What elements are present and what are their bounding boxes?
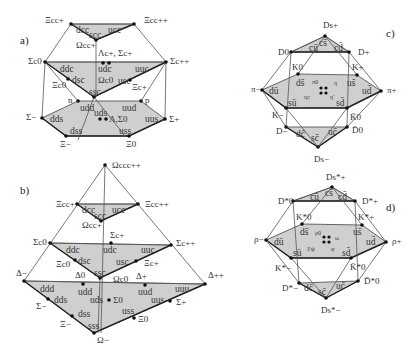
- particle-D-star-minus: D*−: [282, 283, 298, 293]
- particle-K-star-plus: K*+: [358, 212, 374, 222]
- quark-usc: usc: [116, 257, 129, 267]
- quark-us-bar: us̄: [353, 227, 362, 237]
- quark-sd-bar: sd̄: [342, 247, 351, 258]
- particle-n: n: [68, 95, 73, 105]
- quark-su-bar: sū: [288, 98, 297, 108]
- particle-Xi-c-zero: Ξc0: [56, 259, 71, 269]
- particle-phi: φ: [331, 246, 335, 252]
- particle-D-star-0-bar: D̄*0: [364, 276, 380, 286]
- panel-a: a) dcc: [20, 15, 189, 149]
- particle-Xi-cc-plus: Ξcc+: [56, 199, 75, 209]
- particle-Xi-zero: Ξ0: [126, 139, 137, 149]
- particle-Xi-cc-plusplus: Ξcc++: [145, 199, 169, 209]
- quark-udc: udc: [103, 245, 117, 255]
- quark-uc-bar: uc̄: [336, 281, 345, 291]
- quark-ddc: ddc: [66, 245, 80, 255]
- quark-uc-bar: uc̄: [328, 127, 337, 137]
- particle-Xi-minus: Ξ−: [60, 319, 71, 329]
- panel-d-label: d): [386, 201, 396, 214]
- particle-omega: ω: [335, 235, 339, 241]
- quark-uuc: uuc: [141, 245, 155, 255]
- quark-cs-bar: cs̄: [319, 38, 327, 48]
- particle-Xi-c-plus: Ξc+: [132, 82, 147, 92]
- particle-Sigma-zero: Σ0: [113, 295, 123, 305]
- quark-usc: usc: [118, 76, 131, 86]
- particle-Ds-minus: Ds−: [314, 154, 329, 164]
- quark-sc-bar: sc̄: [311, 133, 319, 143]
- particle-D-star-0: D*0: [278, 196, 294, 206]
- quark-cs-bar: cs̄: [325, 188, 333, 198]
- particle-K0: K0: [292, 62, 303, 72]
- particle-Sigma-c-zero: Σc0: [33, 237, 47, 247]
- particle-Delta-minus: Δ−: [16, 268, 27, 278]
- particle-rho-minus: ρ−: [254, 234, 264, 244]
- quark-dsc: dsc: [78, 256, 91, 266]
- quark-ucc: ucc: [112, 205, 125, 215]
- particle-Sigma-minus: Σ−: [36, 301, 46, 311]
- particle-Lambda-Sigma0: Λ,Σ0: [109, 114, 128, 124]
- quark-uss: uss: [122, 306, 134, 316]
- quark-du-bar: dū: [269, 86, 279, 96]
- quark-sss: sss: [88, 321, 99, 331]
- particle-Sigma-plus: Σ+: [169, 114, 179, 124]
- quark-dc-bar: dc̄: [304, 283, 313, 293]
- particle-Xi-c-zero: Ξc0: [52, 80, 67, 90]
- particle-Xi-minus: Ξ−: [60, 139, 71, 149]
- particle-Sigma-c-plus: Σc+: [110, 230, 124, 240]
- particle-Omega-c-zero: Ωc0: [98, 75, 114, 85]
- particle-K-minus: K−: [272, 110, 284, 120]
- particle-Sigma-c-plusplus: Σc++: [176, 238, 195, 248]
- particle-Xi-zero: Ξ0: [138, 314, 149, 324]
- quark-ucc: ucc: [108, 25, 121, 35]
- quark-cd-bar: cd̄: [334, 42, 343, 53]
- quark-cu-bar: cū: [309, 43, 318, 53]
- particle-Sigma-minus: Σ−: [26, 112, 36, 122]
- particle-K-star-minus: K*−: [275, 263, 291, 273]
- particle-Ds-plus: Ds+: [323, 20, 338, 30]
- quark-ud-bar: ud̄: [362, 85, 372, 96]
- quark-dcc: dcc: [76, 25, 89, 35]
- particle-eta-c: ηc: [304, 94, 310, 100]
- quark-du-bar: dū: [274, 237, 284, 247]
- quark-ssc: ssc: [89, 87, 101, 97]
- su4-multiplets-diagram: a) dcc: [0, 0, 412, 357]
- particle-K-plus: K+: [352, 62, 364, 72]
- particle-Delta-plusplus: Δ++: [208, 270, 224, 280]
- particle-D-plus: D+: [358, 47, 370, 57]
- particle-Delta-zero: Δ0: [75, 270, 86, 280]
- particle-eta-prime: η′: [330, 94, 335, 100]
- quark-uss: uss: [119, 126, 131, 136]
- quark-ddd: ddd: [40, 284, 55, 294]
- particle-Xi-c-plus: Ξc+: [144, 258, 159, 268]
- quark-dsc: dsc: [72, 75, 85, 85]
- particle-Sigma-c-plusplus: Σc++: [170, 56, 189, 66]
- particle-J-psi: J/ψ: [307, 246, 315, 252]
- particle-K0-bar: K̄0: [350, 112, 361, 122]
- particle-Omega-minus: Ω−: [97, 335, 109, 345]
- quark-scc: scc: [89, 30, 101, 40]
- particle-pi0: π0: [312, 79, 318, 85]
- quark-sd-bar: sd̄: [336, 97, 345, 108]
- particle-Sigma-plus: Σ+: [176, 297, 186, 307]
- particle-p: p: [145, 95, 150, 105]
- quark-uuc: uuc: [135, 64, 149, 74]
- panel-d: d) cū cs̄ cd̄ ds̄ us̄ dū ud̄: [254, 172, 402, 315]
- particle-Xi-cc-plusplus: Ξcc++: [144, 15, 168, 25]
- particle-D0: D0: [278, 47, 289, 57]
- quark-us-bar: us̄: [347, 78, 356, 88]
- particle-eta: η: [334, 80, 337, 86]
- particle-D-star-plus: D*+: [362, 196, 378, 206]
- particle-Lambda-Sigma-c-plus: Λc+, Σc+: [98, 48, 132, 58]
- quark-ds-bar: ds̄: [300, 227, 309, 237]
- quark-uds: uds: [90, 295, 104, 305]
- particle-Xi-cc-plus: Ξcc+: [45, 15, 64, 25]
- particle-rho-plus: ρ+: [392, 236, 402, 246]
- particle-K-star-0-bar: K̄*0: [350, 262, 366, 272]
- quark-ssc: ssc: [94, 268, 106, 278]
- particle-rho0: ρ0: [315, 230, 321, 236]
- quark-udd: udd: [80, 103, 95, 113]
- particle-Omega-cc-plus: Ωcc+: [82, 220, 102, 230]
- quark-dc-bar: dc̄: [296, 129, 305, 139]
- quark-uds: uds: [94, 108, 108, 118]
- quark-ddc: ddc: [60, 64, 74, 74]
